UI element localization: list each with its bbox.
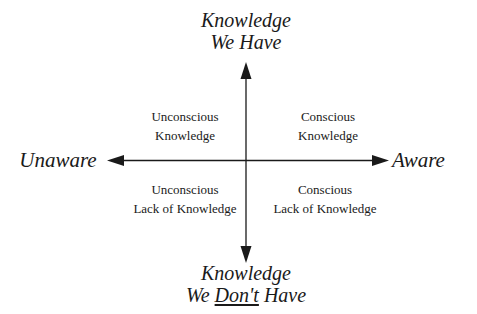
quadrant-conscious-lack-of-knowledge: Conscious Lack of Knowledge	[255, 180, 395, 218]
axis-label-aware: Aware	[392, 149, 462, 171]
arrow-down-icon	[241, 246, 252, 263]
axis-label-top-line1: Knowledge	[146, 9, 346, 31]
quadrant-br-line1: Conscious	[255, 180, 395, 199]
axis-label-bottom-line2: We Don't Have	[146, 284, 346, 306]
axis-label-bottom-suffix: Have	[259, 284, 306, 306]
quadrant-bl-line2: Lack of Knowledge	[115, 199, 255, 218]
axis-label-bottom-emphasis: Don't	[215, 284, 259, 306]
axis-label-knowledge-we-have: Knowledge We Have	[146, 9, 346, 53]
axis-label-bottom-line1: Knowledge	[146, 262, 346, 284]
arrow-right-icon	[372, 155, 389, 166]
quadrant-unconscious-lack-of-knowledge: Unconscious Lack of Knowledge	[115, 180, 255, 218]
quadrant-conscious-knowledge: Conscious Knowledge	[258, 107, 398, 145]
axis-label-unaware: Unaware	[8, 149, 108, 171]
quadrant-bl-line1: Unconscious	[115, 180, 255, 199]
axis-label-knowledge-we-dont-have: Knowledge We Don't Have	[146, 262, 346, 306]
arrow-up-icon	[241, 62, 252, 79]
quadrant-unconscious-knowledge: Unconscious Knowledge	[115, 107, 255, 145]
quadrant-tr-line2: Knowledge	[258, 126, 398, 145]
quadrant-tr-line1: Conscious	[258, 107, 398, 126]
quadrant-br-line2: Lack of Knowledge	[255, 199, 395, 218]
axis-label-bottom-prefix: We	[186, 284, 215, 306]
quadrant-tl-line2: Knowledge	[115, 126, 255, 145]
arrow-left-icon	[107, 155, 124, 166]
axis-label-top-line2: We Have	[146, 31, 346, 53]
quadrant-tl-line1: Unconscious	[115, 107, 255, 126]
